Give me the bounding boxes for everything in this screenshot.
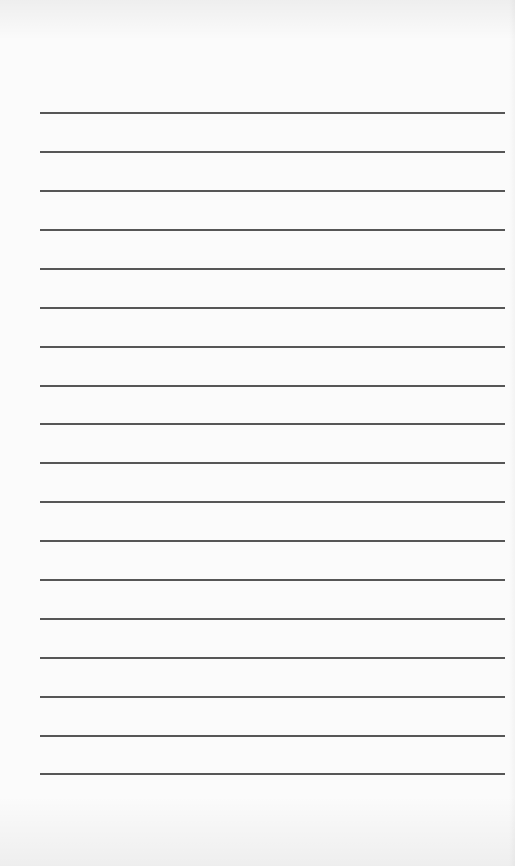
ruled-lines	[0, 0, 515, 866]
ruled-line	[40, 579, 505, 581]
ruled-line	[40, 151, 505, 153]
ruled-line	[40, 346, 505, 348]
ruled-line	[40, 307, 505, 309]
ruled-line	[40, 540, 505, 542]
ruled-line	[40, 385, 505, 387]
ruled-line	[40, 773, 505, 775]
ruled-line	[40, 462, 505, 464]
ruled-line	[40, 229, 505, 231]
ruled-line	[40, 618, 505, 620]
ruled-line	[40, 112, 505, 114]
ruled-line	[40, 268, 505, 270]
ruled-line	[40, 423, 505, 425]
ruled-line	[40, 735, 505, 737]
ruled-line	[40, 696, 505, 698]
lined-paper-sheet	[0, 0, 515, 866]
ruled-line	[40, 657, 505, 659]
ruled-line	[40, 190, 505, 192]
ruled-line	[40, 501, 505, 503]
